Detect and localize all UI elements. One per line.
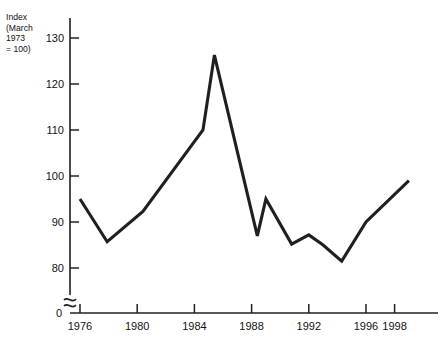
x-tick-label: 1976 — [68, 320, 92, 332]
x-tick-label: 1984 — [182, 320, 206, 332]
x-tick-label: 1998 — [382, 320, 406, 332]
y-tick-label: 90 — [52, 216, 64, 228]
data-series-line — [80, 55, 409, 261]
axis-break-icon — [64, 297, 76, 307]
x-tick-label: 1988 — [239, 320, 263, 332]
x-tick-label: 1980 — [125, 320, 149, 332]
x-tick-label: 1992 — [297, 320, 321, 332]
x-axis-ticks: 1976198019841988199219961998 — [68, 304, 407, 332]
y-tick-label: 100 — [46, 170, 64, 182]
y-tick-label: 110 — [46, 124, 64, 136]
y-axis-ticks: 8090100110120130 — [46, 32, 79, 274]
chart-canvas: 8090100110120130 19761980198419881992199… — [0, 0, 446, 355]
origin-zero-label: 0 — [56, 307, 62, 319]
y-axis-title: Index (March 1973 = 100) — [6, 12, 54, 54]
y-tick-label: 120 — [46, 78, 64, 90]
y-tick-label: 80 — [52, 262, 64, 274]
line-chart: Index (March 1973 = 100) 809010011012013… — [0, 0, 446, 355]
x-tick-label: 1996 — [354, 320, 378, 332]
